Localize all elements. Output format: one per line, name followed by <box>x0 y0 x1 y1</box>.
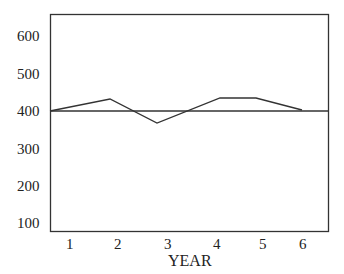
line-chart: 600 500 400 300 200 100 1 2 3 4 5 6 YEAR <box>0 0 344 274</box>
y-tick-500: 500 <box>17 66 40 82</box>
y-tick-300: 300 <box>17 141 40 157</box>
y-tick-100: 100 <box>17 215 40 231</box>
x-tick-4: 4 <box>213 236 221 252</box>
plot-frame <box>51 15 329 232</box>
y-tick-600: 600 <box>17 28 40 44</box>
y-tick-400: 400 <box>17 103 40 119</box>
x-tick-5: 5 <box>259 236 267 252</box>
x-tick-2: 2 <box>114 236 122 252</box>
x-tick-6: 6 <box>299 236 307 252</box>
x-tick-3: 3 <box>164 236 172 252</box>
y-tick-200: 200 <box>17 178 40 194</box>
x-axis-label: YEAR <box>168 252 212 269</box>
x-tick-1: 1 <box>66 236 74 252</box>
